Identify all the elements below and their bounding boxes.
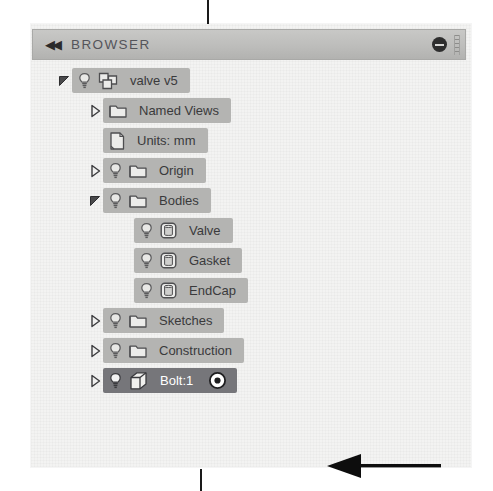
tree-item-valve[interactable]: Valve — [134, 218, 233, 243]
visibility-bulb-icon[interactable] — [108, 192, 123, 210]
tree-row[interactable]: EndCap — [31, 278, 471, 303]
folder-icon — [128, 162, 148, 180]
visibility-bulb-icon[interactable] — [108, 312, 123, 330]
visibility-bulb-icon[interactable] — [139, 252, 154, 270]
twisty-expanded-icon[interactable] — [86, 192, 103, 209]
tree-item-label: Origin — [153, 163, 196, 178]
tree-item-label: Units: mm — [131, 133, 198, 148]
tree-item-bodies[interactable]: Bodies — [103, 188, 211, 213]
twisty-spacer — [117, 252, 134, 269]
activate-target-icon[interactable] — [208, 371, 227, 390]
tree-row[interactable]: Sketches — [31, 308, 471, 333]
tree-row[interactable]: Bolt:1 — [31, 368, 471, 393]
tree-item-label: Sketches — [153, 313, 214, 328]
tree-row[interactable]: Gasket — [31, 248, 471, 273]
tree-row[interactable]: Bodies — [31, 188, 471, 213]
tree-item-named-views[interactable]: Named Views — [103, 98, 231, 123]
visibility-bulb-icon[interactable] — [77, 72, 92, 90]
folder-icon — [108, 102, 128, 120]
resize-grip-icon[interactable] — [454, 35, 460, 55]
visibility-bulb-icon[interactable] — [139, 282, 154, 300]
tree-item-gasket[interactable]: Gasket — [134, 248, 242, 273]
tree-item-construction[interactable]: Construction — [103, 338, 244, 363]
tree-item-origin[interactable]: Origin — [103, 158, 206, 183]
minimize-icon[interactable] — [432, 37, 447, 52]
twisty-collapsed-icon[interactable] — [86, 312, 103, 329]
tree-row[interactable]: valve v5 — [31, 68, 471, 93]
tree-item-label: valve v5 — [124, 73, 180, 88]
occurrence-icon — [128, 371, 149, 391]
visibility-bulb-icon[interactable] — [108, 162, 123, 180]
twisty-collapsed-icon[interactable] — [86, 162, 103, 179]
tree-row[interactable]: Valve — [31, 218, 471, 243]
browser-panel: ◀◀ BROWSER valve v5Named ViewsUnits: mmO… — [31, 24, 471, 467]
tree-row[interactable]: Units: mm — [31, 128, 471, 153]
tree-item-bolt-1[interactable]: Bolt:1 — [103, 368, 237, 393]
tree-item-label: Construction — [153, 343, 234, 358]
pointer-arrow-left — [327, 454, 441, 478]
tree-row[interactable]: Named Views — [31, 98, 471, 123]
body-icon — [159, 221, 178, 240]
visibility-bulb-icon[interactable] — [108, 372, 123, 390]
tree-row[interactable]: Construction — [31, 338, 471, 363]
component-icon — [97, 71, 119, 91]
tree-item-label: Gasket — [183, 253, 232, 268]
twisty-collapsed-icon[interactable] — [86, 372, 103, 389]
tree-row[interactable]: Origin — [31, 158, 471, 183]
page-title: BROWSER — [71, 37, 151, 52]
twisty-collapsed-icon[interactable] — [86, 102, 103, 119]
tree-item-label: Named Views — [133, 103, 221, 118]
tree-item-label: Bodies — [153, 193, 201, 208]
twisty-collapsed-icon[interactable] — [86, 342, 103, 359]
annotation-guide-line-bottom — [200, 469, 202, 491]
twisty-expanded-icon[interactable] — [55, 72, 72, 89]
annotation-guide-line-top — [207, 0, 209, 24]
tree-item-units-mm[interactable]: Units: mm — [103, 128, 208, 153]
tree-item-endcap[interactable]: EndCap — [134, 278, 248, 303]
body-icon — [159, 281, 178, 300]
visibility-bulb-icon[interactable] — [108, 342, 123, 360]
folder-icon — [128, 312, 148, 330]
tree-item-sketches[interactable]: Sketches — [103, 308, 224, 333]
twisty-spacer — [117, 282, 134, 299]
folder-icon — [128, 342, 148, 360]
tree-item-valve-v5[interactable]: valve v5 — [72, 68, 190, 93]
tree-item-label: Bolt:1 — [154, 373, 195, 388]
twisty-spacer — [117, 222, 134, 239]
browser-titlebar: ◀◀ BROWSER — [32, 29, 466, 60]
document-icon — [108, 131, 126, 151]
folder-icon — [128, 192, 148, 210]
visibility-bulb-icon[interactable] — [139, 222, 154, 240]
body-icon — [159, 251, 178, 270]
tree-item-label: Valve — [183, 223, 223, 238]
twisty-spacer — [86, 132, 103, 149]
browser-tree: valve v5Named ViewsUnits: mmOriginBodies… — [31, 68, 471, 398]
tree-item-label: EndCap — [183, 283, 238, 298]
double-chevron-left-icon[interactable]: ◀◀ — [42, 35, 62, 55]
